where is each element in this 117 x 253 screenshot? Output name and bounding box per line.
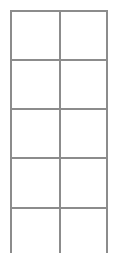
grid-row-divider-1	[10, 59, 108, 61]
grid-row-divider-4	[10, 207, 108, 209]
grid-diagram	[0, 0, 117, 253]
grid-row-divider-3	[10, 157, 108, 159]
grid-top-border	[10, 10, 108, 12]
grid-row-divider-2	[10, 108, 108, 110]
grid-center-divider	[59, 10, 61, 253]
grid-right-border	[106, 10, 108, 253]
grid-left-border	[10, 10, 12, 253]
